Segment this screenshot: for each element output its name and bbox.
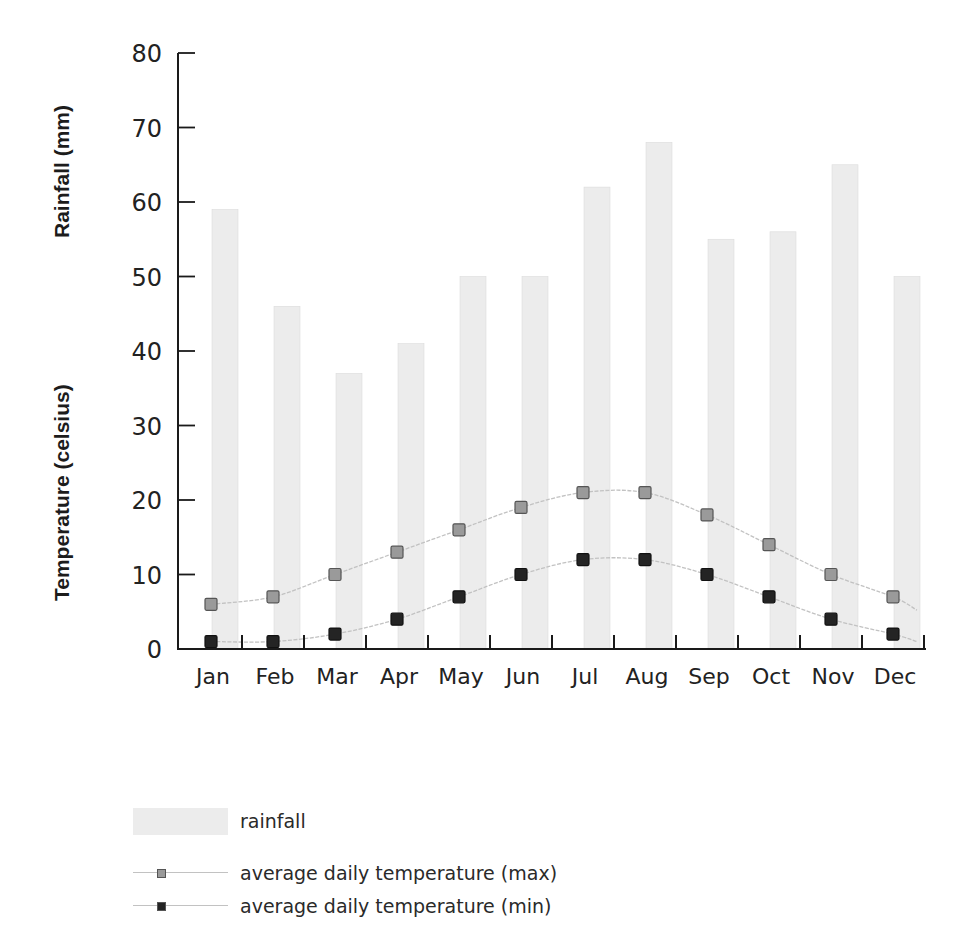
x-tick-label: Apr: [380, 664, 419, 689]
y-tick-label: 0: [147, 636, 162, 664]
rainfall-bar: [646, 142, 672, 649]
climate-chart: 01020304050607080 JanFebMarAprMayJunJulA…: [0, 0, 977, 944]
x-tick-label: Aug: [626, 664, 669, 689]
min-temp-marker: [453, 591, 465, 603]
min-temp-marker: [205, 636, 217, 648]
y-axis-label-temperature: Temperature (celsius): [50, 384, 74, 601]
max-temp-marker: [391, 546, 403, 558]
legend-label: rainfall: [240, 810, 306, 832]
legend-label: average daily temperature (max): [240, 862, 557, 884]
temperature-lines: [205, 487, 917, 648]
legend-label: average daily temperature (min): [240, 895, 552, 917]
min-temp-marker: [701, 569, 713, 581]
max-temp-marker: [329, 569, 341, 581]
rainfall-bar: [770, 232, 796, 649]
y-tick-labels: 01020304050607080: [131, 40, 162, 664]
max-temp-marker: [639, 487, 651, 499]
min-temp-marker: [577, 554, 589, 566]
x-tick-label: Jan: [194, 664, 230, 689]
y-tick-label: 40: [131, 338, 162, 366]
min-temp-marker: [639, 554, 651, 566]
min-marker-icon: [133, 900, 228, 912]
min-temp-marker: [391, 613, 403, 625]
x-tick-label: Mar: [316, 664, 358, 689]
max-temp-line: [211, 490, 917, 610]
y-tick-label: 60: [131, 189, 162, 217]
legend-item-max: average daily temperature (max): [133, 856, 228, 890]
x-tick-label: May: [438, 664, 483, 689]
rainfall-bar: [522, 277, 548, 650]
y-tick-label: 80: [131, 40, 162, 68]
min-temp-marker: [267, 636, 279, 648]
x-tick-label: Oct: [752, 664, 790, 689]
rainfall-bar: [708, 239, 734, 649]
max-temp-marker: [701, 509, 713, 521]
max-temp-marker: [515, 501, 527, 513]
min-temp-marker: [329, 628, 341, 640]
legend-item-rainfall: rainfall: [133, 806, 228, 836]
rainfall-bar: [584, 187, 610, 649]
rainfall-bar: [398, 344, 424, 649]
x-tick-label: Feb: [256, 664, 295, 689]
max-temp-marker: [205, 598, 217, 610]
max-temp-marker: [267, 591, 279, 603]
legend-item-min: average daily temperature (min): [133, 889, 228, 923]
rainfall-swatch-icon: [133, 808, 228, 835]
x-tick-label: Jul: [570, 664, 599, 689]
max-temp-marker: [453, 524, 465, 536]
min-temp-marker: [887, 628, 899, 640]
rainfall-bar: [336, 373, 362, 649]
min-temp-marker: [763, 591, 775, 603]
y-axis-label-rainfall: Rainfall (mm): [50, 105, 74, 238]
max-temp-marker: [577, 487, 589, 499]
max-temp-marker: [887, 591, 899, 603]
rainfall-bars: [212, 142, 920, 649]
y-tick-label: 30: [131, 413, 162, 441]
y-tick-label: 70: [131, 115, 162, 143]
rainfall-bar: [212, 209, 238, 649]
y-tick-label: 50: [131, 264, 162, 292]
legend: rainfall average daily temperature (max)…: [133, 806, 228, 923]
min-temp-marker: [515, 569, 527, 581]
y-tick-label: 20: [131, 487, 162, 515]
y-tick-label: 10: [131, 562, 162, 590]
min-temp-line: [211, 558, 917, 642]
max-temp-marker: [763, 539, 775, 551]
x-tick-label: Nov: [812, 664, 855, 689]
max-temp-marker: [825, 569, 837, 581]
max-marker-icon: [133, 867, 228, 879]
x-tick-labels: JanFebMarAprMayJunJulAugSepOctNovDec: [194, 664, 916, 689]
x-tick-label: Sep: [688, 664, 729, 689]
x-tick-label: Dec: [874, 664, 917, 689]
x-tick-label: Jun: [504, 664, 540, 689]
min-temp-marker: [825, 613, 837, 625]
